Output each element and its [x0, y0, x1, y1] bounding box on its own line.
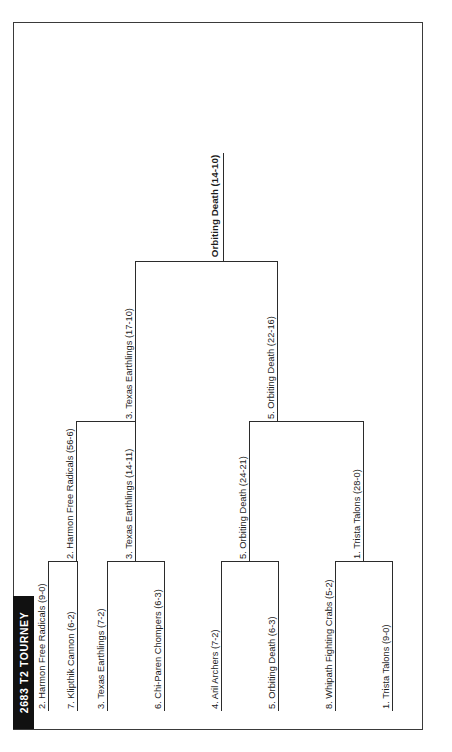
champion-slot[interactable]: Orbiting Death (14-10) — [182, 153, 224, 261]
tournament-bracket-poster: 2683 T2 TOURNEY 1. Trista Talons (9-0) 8… — [13, 22, 423, 730]
round-1-slot-7[interactable]: 7. Klipthik Cannon (6-2) — [50, 561, 78, 711]
champion-label: Orbiting Death (14-10) — [209, 153, 224, 261]
champion-line — [223, 153, 224, 261]
seed-line — [277, 261, 278, 421]
seed-line — [76, 421, 77, 561]
semifinal-slot-2[interactable]: 3. Texas Earthlings (17-10) — [108, 261, 136, 421]
seed-line — [77, 561, 78, 711]
tournament-title-banner: 2683 T2 TOURNEY — [13, 596, 34, 729]
semifinal-slot-1[interactable]: 5. Orbiting Death (22-16) — [250, 261, 278, 421]
round-1-slot-1[interactable]: 1. Trista Talons (9-0) — [363, 561, 393, 711]
seed-line — [335, 561, 336, 711]
round-1-slot-6[interactable]: 3. Texas Earthlings (7-2) — [78, 561, 108, 711]
seed-line — [107, 561, 108, 711]
round-2-slot-2[interactable]: 5. Orbiting Death (24-21) — [222, 421, 250, 561]
seed-line — [135, 261, 136, 421]
seed-line — [135, 421, 136, 561]
round-1-slot-4[interactable]: 4. Aril Archers (7-2) — [192, 561, 222, 711]
seed-line — [164, 561, 165, 711]
seed-line — [392, 561, 393, 711]
round-1-slot-3[interactable]: 5. Orbiting Death (6-3) — [249, 561, 279, 711]
round-2-slot-4[interactable]: 2. Harmon Free Radicals (56-6) — [50, 421, 77, 561]
round-2-slot-3[interactable]: 3. Texas Earthlings (14-11) — [108, 421, 136, 561]
round-1-slot-5[interactable]: 6. Chi-Paren Chompers (6-3) — [135, 561, 165, 711]
bracket-rotator: 2683 T2 TOURNEY 1. Trista Talons (9-0) 8… — [0, 0, 452, 752]
seed-line — [221, 561, 222, 711]
seed-line — [48, 561, 49, 711]
round-2-slot-1[interactable]: 1. Trista Talons (28-0) — [336, 421, 364, 561]
seed-line — [363, 421, 364, 561]
seed-line — [278, 561, 279, 711]
round-1-slot-2[interactable]: 8. Whipath Fighting Crabs (5-2) — [306, 561, 336, 711]
seed-line — [249, 421, 250, 561]
